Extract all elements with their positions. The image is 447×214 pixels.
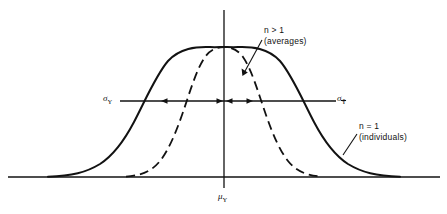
annotation-averages-line1: n > 1	[264, 25, 284, 35]
annotation-averages: n > 1 (averages)	[264, 25, 307, 47]
annotation-individuals: n = 1 (individuals)	[359, 121, 407, 143]
annotation-individuals-line2: (individuals)	[359, 132, 407, 143]
normal-distribution-figure: n > 1 (averages) n = 1 (individuals) σY …	[0, 0, 447, 214]
leader-line-individuals	[343, 134, 357, 155]
sigma-y-subscript: Y	[107, 98, 112, 105]
leader-line-averages	[244, 40, 262, 73]
figure-canvas	[0, 0, 447, 214]
annotation-averages-line2: (averages)	[264, 36, 307, 47]
mu-y-subscript: Y	[223, 196, 228, 203]
annotation-individuals-line1: n = 1	[359, 121, 379, 131]
symbol-sigma-ybar: σȲ	[337, 93, 346, 103]
sigma-averages-left-arrowhead	[226, 98, 233, 104]
sigma-individuals-right-arrowhead	[217, 98, 224, 104]
sigma-averages-right-arrowhead	[247, 98, 254, 104]
sigma-individuals-left-arrowhead	[161, 98, 168, 104]
symbol-sigma-y: σY	[103, 93, 112, 103]
sigma-ybar-subscript: Ȳ	[341, 98, 346, 105]
leader-arrowhead-averages	[242, 69, 248, 76]
symbol-mu-y: μY	[218, 191, 227, 201]
